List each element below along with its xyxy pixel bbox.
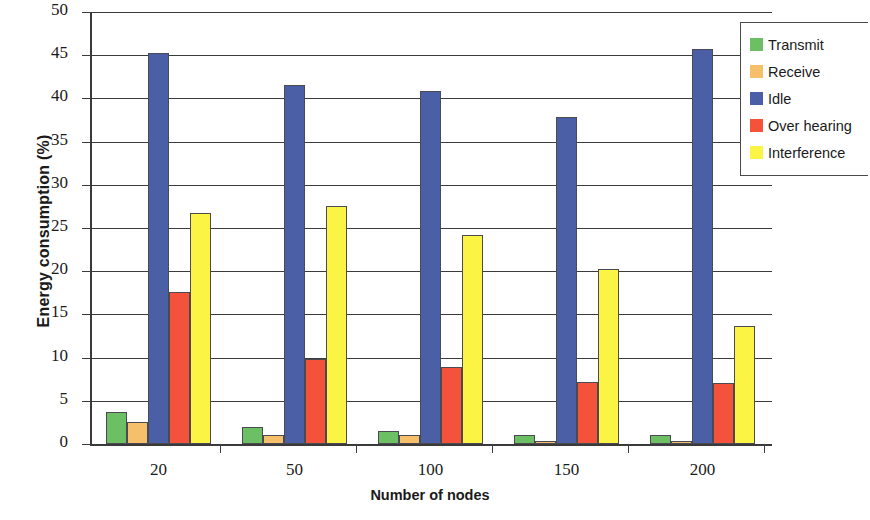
legend-item-label: Transmit: [768, 37, 824, 53]
y-axis-tick: [82, 271, 90, 272]
bar-over-hearing: [577, 382, 598, 444]
x-axis-tick: [220, 444, 221, 453]
legend-item-idle[interactable]: Idle: [741, 85, 868, 112]
plot-area: 051015202530354045502050100150200: [90, 12, 772, 446]
y-axis-tick-label: 40: [22, 86, 68, 106]
bar-idle: [420, 91, 441, 444]
chart-legend: TransmitReceiveIdleOver hearingInterfere…: [740, 22, 868, 176]
bar-interference: [734, 326, 755, 444]
legend-item-label: Receive: [768, 64, 820, 80]
bar-idle: [692, 49, 713, 444]
legend-item-receive[interactable]: Receive: [741, 58, 868, 85]
legend-item-label: Idle: [768, 91, 791, 107]
legend-item-interference[interactable]: Interference: [741, 139, 868, 166]
x-axis-tick-label: 200: [663, 460, 743, 480]
y-axis-tick: [82, 55, 90, 56]
x-axis-tick: [628, 444, 629, 453]
x-axis-tick-label: 150: [527, 460, 607, 480]
legend-swatch-icon: [750, 65, 763, 78]
legend-swatch-icon: [750, 146, 763, 159]
y-axis-tick-label: 5: [22, 389, 68, 409]
y-axis-tick-label: 45: [22, 43, 68, 63]
y-axis-tick: [82, 98, 90, 99]
legend-item-label: Interference: [768, 145, 845, 161]
x-axis-tick-label: 50: [255, 460, 335, 480]
legend-item-transmit[interactable]: Transmit: [741, 31, 868, 58]
bar-transmit: [242, 427, 263, 444]
legend-swatch-icon: [750, 38, 763, 51]
y-axis-tick-label: 30: [22, 173, 68, 193]
legend-swatch-icon: [750, 92, 763, 105]
y-axis-tick: [82, 12, 90, 13]
y-axis-tick: [82, 358, 90, 359]
x-axis-tick: [356, 444, 357, 453]
bar-over-hearing: [713, 383, 734, 444]
y-axis-tick-label: 20: [22, 259, 68, 279]
bar-interference: [190, 213, 211, 444]
bar-transmit: [514, 435, 535, 444]
bar-group: [514, 12, 619, 444]
bar-interference: [326, 206, 347, 444]
bar-group: [106, 12, 211, 444]
x-axis-tick: [764, 444, 765, 453]
x-axis-tick-label: 100: [391, 460, 471, 480]
y-axis-tick-label: 10: [22, 346, 68, 366]
bar-interference: [462, 235, 483, 444]
y-axis-tick: [82, 142, 90, 143]
y-axis-tick: [82, 401, 90, 402]
legend-item-label: Over hearing: [768, 118, 852, 134]
bar-over-hearing: [305, 359, 326, 444]
legend-item-over-hearing[interactable]: Over hearing: [741, 112, 868, 139]
y-axis-tick-label: 0: [22, 432, 68, 452]
bar-idle: [284, 85, 305, 444]
bar-idle: [556, 117, 577, 444]
bar-transmit: [106, 412, 127, 444]
x-axis-tick: [492, 444, 493, 453]
bar-receive: [263, 435, 284, 445]
y-axis-tick: [82, 444, 90, 445]
bar-transmit: [378, 431, 399, 444]
y-axis-tick-label: 25: [22, 216, 68, 236]
bar-receive: [127, 422, 148, 444]
bar-interference: [598, 269, 619, 444]
legend-swatch-icon: [750, 119, 763, 132]
bar-receive: [399, 435, 420, 444]
bar-group: [378, 12, 483, 444]
y-axis-tick: [82, 228, 90, 229]
y-axis-tick-label: 15: [22, 302, 68, 322]
y-axis-tick: [82, 185, 90, 186]
y-axis-tick-label: 50: [22, 0, 68, 20]
y-axis-tick: [82, 314, 90, 315]
bar-idle: [148, 53, 169, 444]
bar-chart: Energy consumption (%) 05101520253035404…: [0, 0, 870, 520]
y-axis-tick-label: 35: [22, 130, 68, 150]
x-axis-tick-label: 20: [119, 460, 199, 480]
bar-over-hearing: [441, 367, 462, 444]
bar-transmit: [650, 435, 671, 444]
x-axis-title: Number of nodes: [90, 487, 770, 503]
bar-group: [242, 12, 347, 444]
bar-receive: [535, 441, 556, 444]
bar-over-hearing: [169, 292, 190, 444]
bar-receive: [671, 441, 692, 444]
